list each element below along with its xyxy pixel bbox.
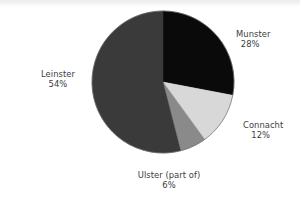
pie-chart: Munster 28% Connacht 12% Leinster 54% Ul… bbox=[0, 0, 300, 199]
pie-label-ulster-percent: 6% bbox=[138, 180, 201, 190]
pie-label-munster: Munster 28% bbox=[236, 29, 270, 50]
pie-label-leinster: Leinster 54% bbox=[41, 69, 75, 90]
pie-slice-munster[interactable] bbox=[163, 11, 234, 95]
pie-label-connacht-name: Connacht bbox=[243, 120, 283, 130]
pie-slices bbox=[92, 11, 234, 153]
pie-label-ulster-name: Ulster (part of) bbox=[138, 170, 201, 180]
pie-label-leinster-percent: 54% bbox=[41, 79, 75, 89]
pie-label-connacht-percent: 12% bbox=[243, 130, 283, 140]
pie-label-munster-name: Munster bbox=[236, 29, 270, 39]
pie-label-ulster: Ulster (part of) 6% bbox=[138, 170, 201, 191]
pie-chart-screenshot: Munster 28% Connacht 12% Leinster 54% Ul… bbox=[0, 0, 300, 199]
pie-label-connacht: Connacht 12% bbox=[243, 120, 283, 141]
pie-label-munster-percent: 28% bbox=[236, 39, 270, 49]
pie-label-leinster-name: Leinster bbox=[41, 69, 75, 79]
